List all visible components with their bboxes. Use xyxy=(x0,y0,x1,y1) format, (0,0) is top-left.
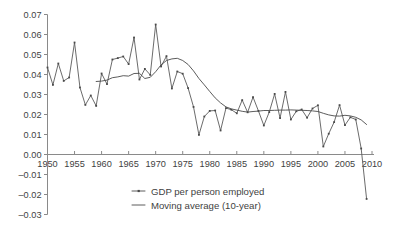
data-point-marker xyxy=(279,117,281,119)
data-point-marker xyxy=(333,121,335,123)
x-tick-label: 2010 xyxy=(362,159,382,169)
data-point-marker xyxy=(306,117,308,119)
data-point-marker xyxy=(133,37,135,39)
data-point-marker xyxy=(198,134,200,136)
data-point-marker xyxy=(268,111,270,113)
data-point-marker xyxy=(139,79,141,81)
data-point-marker xyxy=(47,67,49,69)
y-tick-label: 0.01 xyxy=(24,130,42,140)
y-tick-label: –0.01 xyxy=(19,170,42,180)
legend-item[interactable]: GDP per person employed xyxy=(132,186,264,197)
data-point-marker xyxy=(68,77,70,79)
data-point-marker xyxy=(155,24,157,26)
x-axis-tick-labels: 1950195519601965197019751980198519901995… xyxy=(37,159,382,169)
data-point-marker xyxy=(166,55,168,57)
data-point-marker xyxy=(79,87,81,89)
y-axis-tick-labels: 0.070.060.050.040.030.020.010.00–0.01–0.… xyxy=(19,10,42,220)
data-point-marker xyxy=(176,71,178,73)
chart-container: 0.070.060.050.040.030.020.010.00–0.01–0.… xyxy=(0,0,394,229)
data-point-marker xyxy=(366,198,368,200)
data-point-marker xyxy=(295,110,297,112)
data-point-marker xyxy=(144,68,146,70)
data-point-marker xyxy=(193,106,195,108)
x-tick-label: 2005 xyxy=(335,159,355,169)
data-point-marker xyxy=(317,104,319,106)
data-point-marker xyxy=(214,110,216,112)
y-tick-label: –0.03 xyxy=(19,210,42,220)
y-tick-label: 0.07 xyxy=(24,10,42,20)
y-axis-ticks xyxy=(44,15,48,215)
data-point-marker xyxy=(122,56,124,58)
y-tick-label: 0.06 xyxy=(24,30,42,40)
chart-legend: GDP per person employedMoving average (1… xyxy=(132,186,264,211)
data-point-marker xyxy=(128,63,130,65)
data-point-marker xyxy=(285,91,287,93)
y-tick-label: 0.03 xyxy=(24,90,42,100)
x-tick-label: 1970 xyxy=(145,159,165,169)
data-point-marker xyxy=(312,108,314,110)
y-tick-label: 0.02 xyxy=(24,110,42,120)
data-point-marker xyxy=(236,112,238,114)
y-tick-label: –0.02 xyxy=(19,190,42,200)
x-tick-label: 1980 xyxy=(200,159,220,169)
data-point-marker xyxy=(95,105,97,107)
data-point-marker xyxy=(112,59,114,61)
x-tick-label: 1975 xyxy=(172,159,192,169)
data-point-marker xyxy=(252,96,254,98)
x-tick-label: 1955 xyxy=(64,159,84,169)
data-point-marker xyxy=(187,87,189,89)
x-tick-label: 2000 xyxy=(308,159,328,169)
data-point-marker xyxy=(322,146,324,148)
data-point-marker xyxy=(203,116,205,118)
chart-plot: 0.070.060.050.040.030.020.010.00–0.01–0.… xyxy=(0,0,394,229)
data-point-marker xyxy=(209,110,211,112)
data-point-marker xyxy=(84,104,86,106)
data-point-marker xyxy=(290,119,292,121)
data-point-marker xyxy=(63,80,65,82)
data-point-marker xyxy=(74,42,76,44)
legend-item[interactable]: Moving average (10-year) xyxy=(132,200,261,211)
x-tick-label: 1990 xyxy=(254,159,274,169)
data-point-marker xyxy=(106,83,108,85)
data-point-marker xyxy=(149,74,151,76)
data-point-marker xyxy=(57,63,59,65)
legend-marker-dot-icon xyxy=(138,190,140,192)
data-point-marker xyxy=(241,99,243,101)
x-tick-label: 1960 xyxy=(91,159,111,169)
moving-average-series xyxy=(96,58,366,124)
legend-label: Moving average (10-year) xyxy=(151,200,261,211)
data-point-marker xyxy=(355,119,357,121)
data-point-marker xyxy=(171,88,173,90)
data-point-marker xyxy=(274,93,276,95)
data-point-marker xyxy=(263,125,265,127)
x-tick-label: 1985 xyxy=(227,159,247,169)
data-point-marker xyxy=(182,73,184,75)
data-point-marker xyxy=(328,133,330,135)
data-point-marker xyxy=(52,84,54,86)
data-point-marker xyxy=(220,130,222,132)
data-point-marker xyxy=(101,73,103,75)
data-point-marker xyxy=(117,57,119,59)
data-point-marker xyxy=(90,95,92,97)
x-tick-label: 1995 xyxy=(281,159,301,169)
x-tick-label: 1965 xyxy=(118,159,138,169)
data-point-marker xyxy=(349,116,351,118)
data-point-marker xyxy=(339,104,341,106)
y-tick-label: 0.05 xyxy=(24,50,42,60)
x-axis-ticks xyxy=(48,151,373,155)
legend-label: GDP per person employed xyxy=(151,186,264,197)
data-point-marker xyxy=(344,124,346,126)
data-point-marker xyxy=(360,148,362,150)
y-tick-label: 0.04 xyxy=(24,70,42,80)
